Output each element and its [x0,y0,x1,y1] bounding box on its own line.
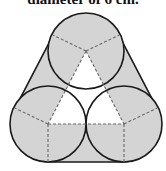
circles-band-diagram [0,0,166,171]
